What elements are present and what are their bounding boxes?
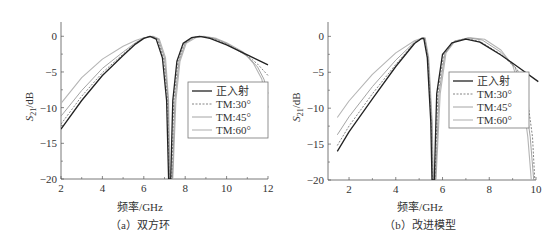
y-axis-title: S21/dB <box>23 92 38 121</box>
x-tick-label: 12 <box>263 182 274 194</box>
y-tick-label: −5 <box>45 66 57 78</box>
y-tick-label: −20 <box>307 174 325 186</box>
y-tick-label: 0 <box>52 30 58 42</box>
x-tick-label: 10 <box>531 183 543 195</box>
y-tick-label: −15 <box>40 137 58 149</box>
legend-entry: 正入射 <box>216 84 249 97</box>
x-tick-label: 8 <box>487 183 493 195</box>
x-tick-label: 2 <box>346 183 352 195</box>
y-tick-label: 0 <box>319 30 325 42</box>
legend-entry: 正入射 <box>477 74 510 87</box>
legend: 正入射TM:30°TM:45°TM:60° <box>449 72 529 128</box>
y-tick-label: −20 <box>40 173 58 185</box>
y-tick-label: −10 <box>40 102 58 114</box>
x-tick-label: 2 <box>58 182 64 194</box>
legend-entry: TM:60° <box>216 124 251 136</box>
x-tick-label: 10 <box>221 182 233 194</box>
legend: 正入射TM:30°TM:45°TM:60° <box>188 82 268 138</box>
x-tick-label: 8 <box>182 182 188 194</box>
y-axis-title: S21/dB <box>290 92 305 121</box>
x-tick-label: 4 <box>393 183 399 195</box>
legend-entry: TM:60° <box>477 114 512 126</box>
chart-a: 246810120−5−10−15−20S21/dB正入射TM:30°TM:45… <box>23 22 274 194</box>
legend-entry: TM:45° <box>477 101 512 113</box>
y-tick-label: −5 <box>312 66 324 78</box>
x-tick-label: 6 <box>141 182 147 194</box>
x-tick-label: 6 <box>440 183 446 195</box>
legend-entry: TM:30° <box>216 98 251 110</box>
y-tick-label: −10 <box>307 102 325 114</box>
legend-entry: TM:45° <box>216 111 251 123</box>
x-tick-label: 4 <box>100 182 106 194</box>
legend-entry: TM:30° <box>477 88 512 100</box>
plots-canvas: 246810120−5−10−15−20S21/dB正入射TM:30°TM:45… <box>0 0 560 244</box>
y-tick-label: −15 <box>307 138 325 150</box>
chart-b: 2468100−5−10−15−20S21/dB正入射TM:30°TM:45°T… <box>290 22 542 195</box>
